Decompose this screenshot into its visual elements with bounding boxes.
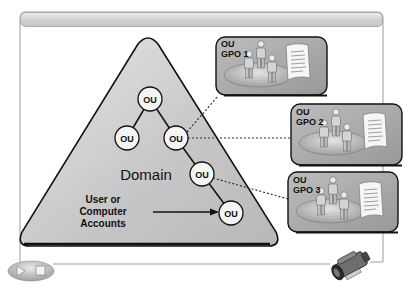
gpo-label-line2: GPO 2 — [296, 117, 324, 127]
gpo-box-1[interactable]: OU GPO 1 — [216, 37, 327, 96]
playback-controls — [8, 261, 54, 281]
ou-label: OU — [143, 95, 157, 105]
svg-text:Accounts: Accounts — [80, 218, 126, 229]
gpo-label-line1: OU — [296, 107, 310, 117]
policy-document-icon — [286, 44, 310, 80]
ou-label: OU — [120, 134, 134, 144]
gpo-label-line2: GPO 3 — [293, 185, 321, 195]
ou-label: OU — [169, 134, 183, 144]
ou-label: OU — [224, 209, 238, 219]
svg-text:User or: User or — [85, 194, 120, 205]
gpo-label-line2: GPO 1 — [221, 49, 249, 59]
domain-label: Domain — [120, 166, 172, 183]
ou-node-right[interactable]: OU — [164, 126, 188, 150]
gpo-box-2[interactable]: OU GPO 2 — [291, 104, 402, 166]
policy-document-icon — [359, 182, 383, 218]
ou-node-lower[interactable]: OU — [190, 162, 214, 186]
ou-node-root[interactable]: OU — [138, 87, 162, 111]
policy-document-icon — [363, 113, 387, 149]
diagram-canvas: OU OU OU OU OU Domain User or Computer A… — [0, 0, 411, 292]
gpo-box-3[interactable]: OU GPO 3 — [288, 172, 398, 233]
ou-node-left[interactable]: OU — [115, 126, 139, 150]
stop-button[interactable] — [36, 266, 45, 275]
ou-node-bottom[interactable]: OU — [219, 201, 243, 225]
svg-text:Computer: Computer — [79, 206, 126, 217]
frame-header-band — [21, 13, 383, 27]
ou-label: OU — [195, 170, 209, 180]
gpo-label-line1: OU — [293, 175, 307, 185]
stop-icon — [36, 266, 45, 275]
accounts-label: User or Computer Accounts — [79, 194, 126, 229]
gpo-label-line1: OU — [221, 39, 235, 49]
